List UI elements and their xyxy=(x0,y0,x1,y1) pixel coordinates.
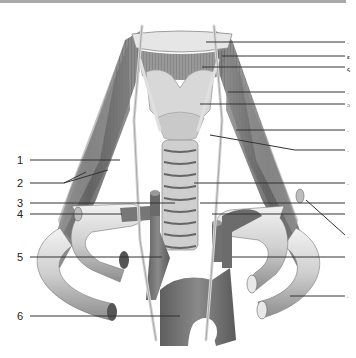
right-label-fragment: ε xyxy=(347,54,350,60)
right-label-fragment: - xyxy=(347,181,349,187)
right-label-fragment: ↄ xyxy=(347,102,350,108)
left-subclavian-vessels xyxy=(37,204,145,321)
right-label-fragment: ς xyxy=(347,66,350,72)
right-label-fragment: - xyxy=(347,128,349,134)
trachea xyxy=(162,140,198,250)
label-4: 4 xyxy=(17,209,23,220)
right-label-fragment: - xyxy=(347,40,349,46)
label-1: 1 xyxy=(17,155,23,166)
right-label-fragment: - xyxy=(347,90,349,96)
label-6: 6 xyxy=(17,311,23,322)
label-5: 5 xyxy=(17,252,23,263)
right-label-fragment: - xyxy=(347,234,349,240)
right-label-fragment: - xyxy=(347,294,349,300)
label-2: 2 xyxy=(17,178,23,189)
cricothyroid-fan xyxy=(156,112,204,141)
right-label-fragment: - xyxy=(347,148,349,154)
neck-anatomy-illustration xyxy=(0,0,356,358)
